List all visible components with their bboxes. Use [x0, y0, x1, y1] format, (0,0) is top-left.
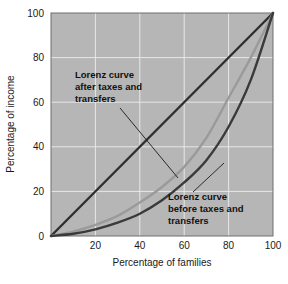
lorenz-curve-chart: 20406080100 020406080100 Percentage of f…	[0, 0, 288, 284]
annotation-line: Lorenz curve	[168, 191, 227, 202]
x-tick-label: 100	[265, 240, 282, 251]
annotation-line: after taxes and	[75, 81, 142, 92]
x-tick-label: 80	[223, 240, 235, 251]
annotation-line: transfers	[168, 215, 209, 226]
y-tick-label: 40	[33, 141, 45, 152]
x-axis-label: Percentage of families	[113, 257, 212, 268]
chart-svg: 20406080100 020406080100 Percentage of f…	[0, 0, 288, 284]
annotation-line: before taxes and	[168, 203, 244, 214]
annotation-line: transfers	[75, 93, 116, 104]
y-axis-label: Percentage of income	[5, 75, 16, 173]
y-tick-label: 0	[38, 231, 44, 242]
x-tick-label: 40	[134, 240, 146, 251]
x-tick-label: 20	[90, 240, 102, 251]
y-tick-label: 20	[33, 186, 45, 197]
y-tick-label: 60	[33, 97, 45, 108]
y-tick-label: 80	[33, 52, 45, 63]
annotation-line: Lorenz curve	[75, 69, 134, 80]
x-tick-label: 60	[179, 240, 191, 251]
x-tick-labels: 20406080100	[90, 240, 282, 251]
y-tick-label: 100	[27, 8, 44, 19]
y-tick-labels: 020406080100	[27, 8, 44, 242]
